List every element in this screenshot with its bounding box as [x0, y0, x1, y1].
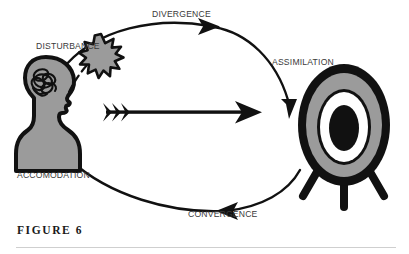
label-divergence: DIVERGENCE — [152, 9, 211, 19]
label-accomodation: ACCOMODATION — [17, 170, 90, 180]
figure-page: DISTURBANCE DIVERGENCE ASSIMILATION CONV… — [0, 0, 409, 254]
caption-divider — [16, 247, 396, 248]
arc-accomodation — [70, 160, 222, 211]
label-disturbance: DISTURBANCE — [36, 41, 100, 51]
cycle-diagram: DISTURBANCE DIVERGENCE ASSIMILATION CONV… — [0, 0, 409, 254]
straight-arrow-right — [103, 101, 262, 123]
arrowhead-divergence — [198, 18, 220, 35]
label-convergence: CONVERGENCE — [188, 209, 258, 219]
arc-convergence — [226, 170, 300, 211]
figure-caption: FIGURE 6 — [17, 224, 83, 236]
arrowhead-assimilation — [281, 99, 297, 119]
bullseye-target-on-stand — [298, 64, 390, 207]
head-silhouette — [16, 57, 80, 171]
label-assimilation: ASSIMILATION — [272, 57, 334, 67]
